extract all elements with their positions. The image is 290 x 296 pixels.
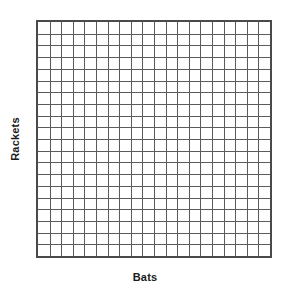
grid-lines xyxy=(38,22,270,256)
yaxis-title-container: Rackets xyxy=(0,20,30,258)
xaxis-title: Bats xyxy=(0,270,290,284)
chart-figure: Rackets Bats xyxy=(0,0,290,296)
vertical-gridlines xyxy=(51,22,259,256)
plot-area xyxy=(36,20,272,258)
yaxis-title: Rackets xyxy=(9,117,21,161)
horizontal-gridlines xyxy=(38,35,270,245)
